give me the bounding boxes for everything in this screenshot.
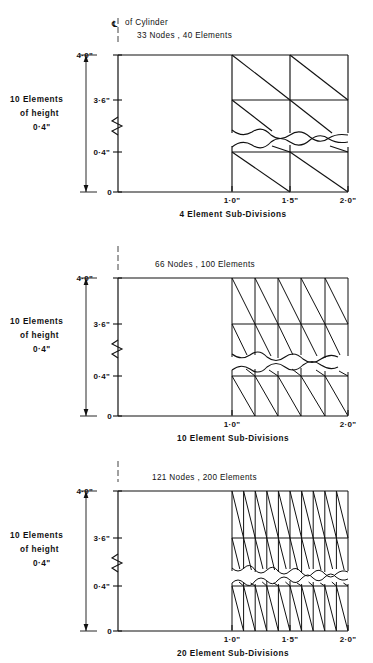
y-note-line1-2: 10 Elements [10,317,63,326]
x-tick-label-1-0-3: 1·0" [224,635,241,644]
x-tick-label-2-0: 2·0" [340,196,357,205]
height-dimension-line-3 [80,491,97,631]
mesh-lower-10el [232,362,348,417]
y-tick-label-0-4-2: 0·4" [93,372,110,381]
y-note-line2: of height [20,109,59,118]
axis-break-symbol-2 [112,340,122,358]
panel-title-3: 121 Nodes , 200 Elements [152,473,257,482]
y-note-line3-2: 0·4" [33,345,51,354]
y-tick-label-3-6-2: 3·6" [93,320,110,329]
y-tick-label-4-0-2: 4·0" [76,274,93,283]
x-tick-label-2-0-2: 2·0" [340,420,357,429]
mesh-upper-4el [232,55,348,141]
y-tick-label-3-6: 3·6" [93,96,110,105]
panel-caption-2: 10 Element Sub-Divisions [177,434,289,443]
panel-caption-3: 20 Element Sub-Divisions [177,649,289,658]
height-dimension-line-2 [80,278,97,416]
x-tick-marks-2 [232,410,348,415]
y-note-line1: 10 Elements [10,95,63,104]
y-tick-label-0-4: 0·4" [93,148,110,157]
x-tick-label-2-0-3: 2·0" [340,635,357,644]
y-tick-label-0: 0 [107,188,112,197]
panel-caption: 4 Element Sub-Divisions [179,210,286,219]
y-tick-label-4-0-3: 4·0" [76,487,93,496]
y-note-line1-3: 10 Elements [10,531,63,540]
x-tick-label-1-5-3: 1·5" [282,635,299,644]
mesh-lower-20el [232,574,348,631]
panel-20-element: 121 Nodes , 200 Elements 10 Elements of … [10,461,356,658]
y-tick-label-0-3: 0 [107,627,112,636]
mesh-upper-10el [232,278,348,363]
x-tick-label-1-0: 1·0" [224,196,241,205]
panel-10-element: 66 Nodes , 100 Elements 10 Elements of h… [10,246,356,443]
x-tick-label-1-0-2: 1·0" [224,420,241,429]
centerline-label: of Cylinder [125,18,168,27]
y-note-line2-2: of height [20,331,59,340]
x-tick-label-1-5: 1·5" [282,196,299,205]
figure-container: ℄ of Cylinder 33 Nodes , 40 Elements 10 … [0,0,373,663]
axis-break-symbol-3 [112,554,122,572]
mesh-upper-20el [232,491,348,577]
height-dimension-line [80,55,97,192]
y-tick-label-0-4-3: 0·4" [93,582,110,591]
y-note-line2-3: of height [20,545,59,554]
centerline-symbol: ℄ [111,20,118,29]
mesh-subdivision-figure: ℄ of Cylinder 33 Nodes , 40 Elements 10 … [0,0,373,663]
panel-title: 33 Nodes , 40 Elements [137,31,232,40]
mesh-lower-4el [232,136,348,192]
y-tick-label-4-0: 4·0" [76,51,93,60]
y-note-line3-3: 0·4" [33,559,51,568]
axis-break-symbol [112,117,122,135]
y-tick-label-0-2: 0 [107,412,112,421]
panel-title-2: 66 Nodes , 100 Elements [155,260,255,269]
panel-4-element: ℄ of Cylinder 33 Nodes , 40 Elements 10 … [10,18,356,219]
y-tick-label-3-6-3: 3·6" [93,534,110,543]
y-note-line3: 0·4" [33,123,51,132]
